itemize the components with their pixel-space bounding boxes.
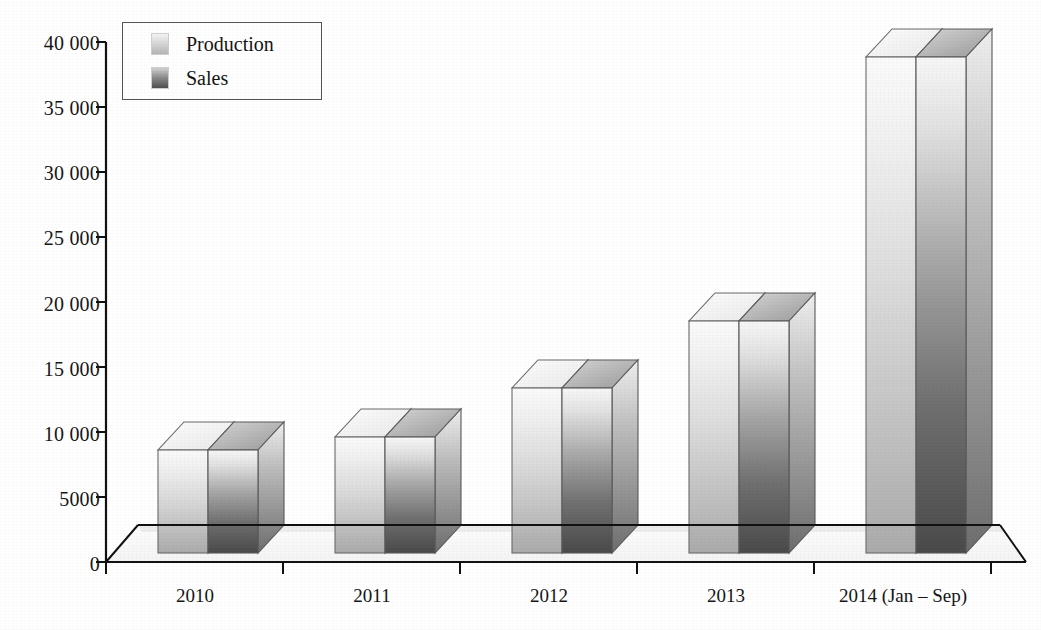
legend-swatch-icon: [151, 67, 169, 89]
legend-label: Production: [186, 33, 274, 56]
x-axis-ticks: [106, 562, 991, 574]
bar-chart: 40 000 35 000 30 000 25 000 20 000 15 00…: [0, 0, 1041, 630]
chart-legend: Production Sales: [122, 22, 322, 100]
legend-item-production: Production: [151, 32, 274, 56]
bar-2010-sales: [208, 422, 284, 553]
bar-2013-sales: [739, 293, 815, 553]
bar-2014-sales: [916, 29, 992, 553]
legend-label: Sales: [186, 67, 228, 90]
legend-swatch-icon: [151, 33, 169, 55]
y-axis: [96, 42, 106, 562]
bar-2011-sales: [385, 409, 461, 553]
legend-item-sales: Sales: [151, 66, 228, 90]
